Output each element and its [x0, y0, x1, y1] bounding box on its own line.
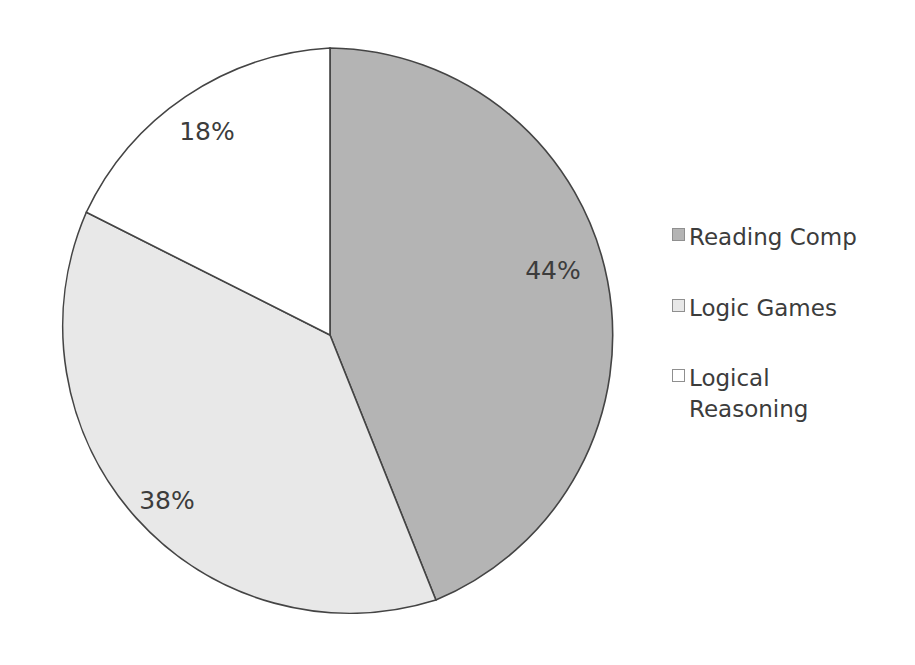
- legend: Reading Comp Logic Games Logical Reasoni…: [672, 222, 907, 464]
- legend-swatch-icon: [672, 369, 685, 382]
- legend-swatch-icon: [672, 228, 685, 241]
- legend-item-logical-reasoning[interactable]: Logical Reasoning: [672, 363, 907, 424]
- legend-item-reading-comp[interactable]: Reading Comp: [672, 222, 907, 253]
- slice-label-logical-reasoning: 18%: [179, 117, 235, 146]
- legend-label-reading-comp: Reading Comp: [689, 222, 857, 253]
- legend-item-logic-games[interactable]: Logic Games: [672, 293, 907, 324]
- legend-label-logic-games: Logic Games: [689, 293, 837, 324]
- legend-swatch-icon: [672, 299, 685, 312]
- pie-chart: 44% 38% 18% Reading Comp Logic Games Log…: [0, 0, 915, 665]
- slice-label-reading-comp: 44%: [525, 256, 581, 285]
- legend-label-logical-reasoning: Logical Reasoning: [689, 363, 808, 424]
- slice-label-logic-games: 38%: [139, 486, 195, 515]
